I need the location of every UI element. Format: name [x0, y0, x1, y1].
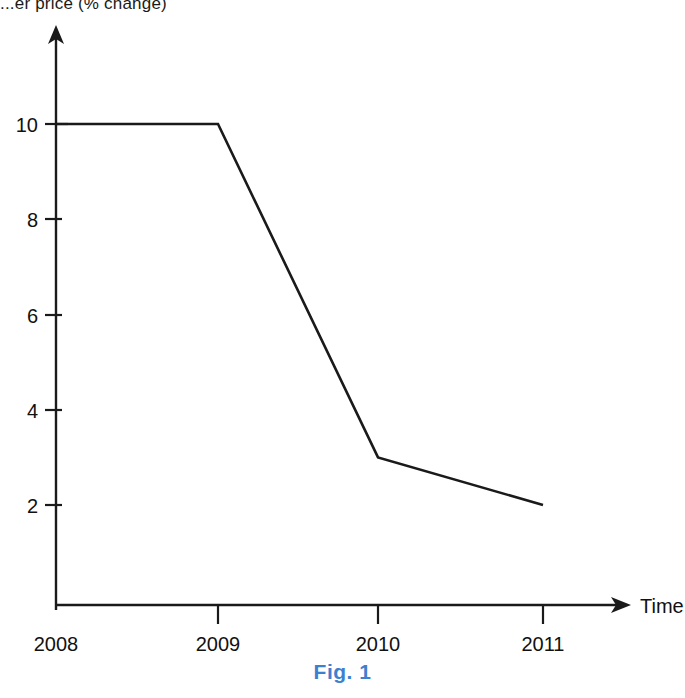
x-tick-label-2009: 2009	[196, 633, 241, 655]
data-series-line	[56, 124, 543, 505]
figure-caption: Fig. 1	[0, 660, 685, 684]
x-tick-label-2011: 2011	[521, 633, 564, 655]
x-axis-ticks	[218, 605, 543, 624]
figure-container: ...er price (% change) 10 8 6 4 2	[0, 0, 685, 698]
x-tick-label-2008: 2008	[34, 633, 79, 655]
y-tick-label-4: 4	[27, 400, 38, 422]
chart-plot: 10 8 6 4 2 2008 2009 2010 2011 Time	[0, 0, 685, 698]
y-tick-label-6: 6	[27, 305, 38, 327]
y-tick-label-2: 2	[27, 495, 38, 517]
y-tick-label-8: 8	[27, 209, 38, 231]
x-axis	[55, 597, 631, 613]
y-axis	[48, 25, 64, 610]
x-axis-title: Time	[640, 595, 684, 617]
x-tick-label-2010: 2010	[356, 633, 401, 655]
y-tick-label-10: 10	[16, 114, 38, 136]
